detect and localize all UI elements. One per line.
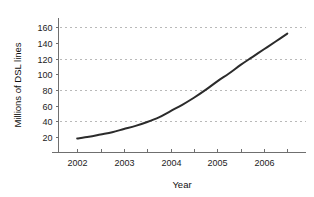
x-tick-label-2006: 2006: [254, 158, 274, 168]
y-tick-label-120: 120: [37, 55, 52, 65]
x-tick-label-2004: 2004: [161, 158, 181, 168]
dsl-lines-series: [77, 34, 287, 139]
y-tick-label-20: 20: [42, 133, 52, 143]
x-axis-ticks: [78, 149, 288, 153]
y-tick-label-60: 60: [42, 102, 52, 112]
x-tick-label-2003: 2003: [114, 158, 134, 168]
x-axis-tick-labels: 20022003200420052006: [67, 158, 274, 168]
y-axis-title: Millions of DSL lines: [12, 42, 23, 127]
chart-canvas: 20406080100120140160 2002200320042005200…: [0, 0, 314, 197]
y-tick-label-100: 100: [37, 70, 52, 80]
x-tick-label-2005: 2005: [207, 158, 227, 168]
y-tick-label-80: 80: [42, 86, 52, 96]
gridlines: [60, 28, 307, 122]
y-tick-label-160: 160: [37, 23, 52, 33]
dsl-growth-chart: 20406080100120140160 2002200320042005200…: [0, 0, 314, 197]
y-tick-label-40: 40: [42, 117, 52, 127]
y-tick-label-140: 140: [37, 39, 52, 49]
axes: [52, 18, 306, 153]
y-axis-tick-labels: 20406080100120140160: [37, 23, 52, 143]
x-axis-title: Year: [172, 179, 191, 190]
x-tick-label-2002: 2002: [67, 158, 87, 168]
